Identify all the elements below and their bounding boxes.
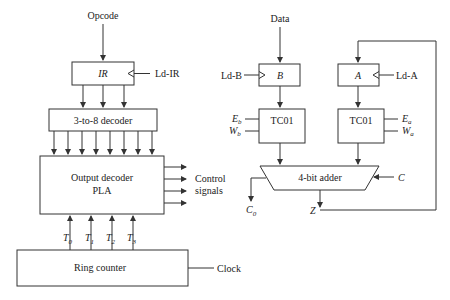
t3-label: T3 — [127, 232, 137, 246]
control-signal-arrows — [164, 167, 186, 203]
wb-label: Wb — [229, 125, 241, 138]
carry-out-arrow — [251, 178, 266, 201]
control-signals-line2: signals — [195, 185, 223, 196]
data-label: Data — [271, 13, 290, 24]
ld-ir-label: Ld-IR — [155, 68, 180, 79]
decoder-label: 3-to-8 decoder — [74, 115, 133, 126]
ld-b-label: Ld-B — [221, 70, 242, 81]
reg-b-label: B — [277, 70, 283, 81]
timing-signals: T0 T1 T2 T3 — [63, 216, 137, 250]
ld-a-label: Ld-A — [396, 70, 418, 81]
tc01-a-label: TC01 — [350, 115, 373, 126]
ir-label: IR — [97, 68, 107, 79]
t0-label: T0 — [63, 232, 73, 246]
ring-counter-label: Ring counter — [74, 262, 127, 273]
control-unit: Opcode IR Ld-IR 3-to-8 decoder Output de… — [17, 10, 241, 286]
datapath: Data B Ld-B A Ld-A TC01 Eb Wb TC01 Ea Wa — [221, 13, 436, 218]
reg-a-label: A — [354, 70, 362, 81]
t2-label: T2 — [106, 232, 116, 246]
carry-out-label: C0 — [246, 204, 257, 218]
control-signals-line1: Control — [195, 173, 226, 184]
datapath-diagram: Opcode IR Ld-IR 3-to-8 decoder Output de… — [0, 0, 450, 300]
t1-label: T1 — [85, 232, 94, 246]
clock-label: Clock — [217, 263, 241, 274]
decoder-outputs — [54, 131, 152, 154]
z-label: Z — [310, 205, 316, 216]
wa-label: Wa — [402, 125, 414, 138]
opcode-label: Opcode — [87, 10, 119, 21]
carry-in-label: C — [398, 172, 405, 183]
adder-label: 4-bit adder — [298, 172, 342, 183]
pla-label-line2: PLA — [93, 185, 113, 196]
tc01-b-label: TC01 — [271, 115, 294, 126]
pla-label-line1: Output decoder — [71, 172, 134, 183]
